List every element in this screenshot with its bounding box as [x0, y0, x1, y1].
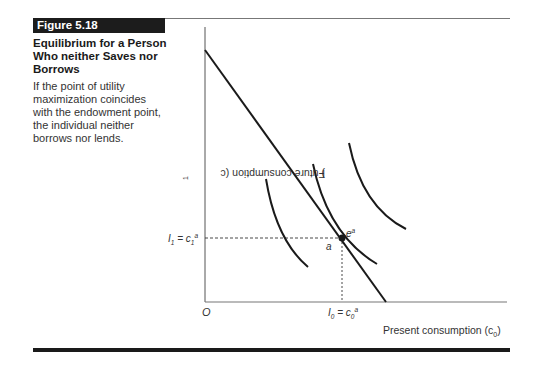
optimum-point-label: ea	[346, 227, 355, 239]
indifference-curve-high	[349, 143, 406, 229]
bottom-rule	[33, 348, 510, 352]
x-endowment-marker: I0 = c0a	[328, 306, 358, 320]
diagram-canvas	[0, 0, 539, 372]
equilibrium-point	[339, 235, 346, 242]
indifference-curve-low	[266, 179, 308, 267]
origin-label: O	[202, 306, 211, 318]
x-axis-label: Present consumption (c0)	[383, 324, 501, 338]
endowment-point-label: a	[326, 241, 332, 252]
y-axis-label: Future consumption (c1)	[175, 30, 195, 180]
y-endowment-marker: I1 = c1a	[168, 232, 198, 246]
